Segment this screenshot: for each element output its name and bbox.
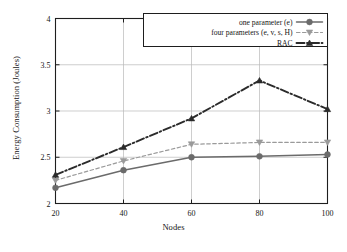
y-axis-tick-label: 2: [47, 200, 51, 209]
y-axis-tick-label: 2.5: [41, 153, 51, 162]
legend-entry-label: RAC: [277, 39, 293, 48]
x-axis-tick-label: 40: [120, 209, 128, 218]
chart-legend: one parameter (e)four parameters (e, v, …: [144, 14, 328, 48]
x-axis-tick-label: 20: [52, 209, 60, 218]
series-data-point: [121, 167, 127, 173]
series-data-point: [325, 152, 331, 158]
x-axis-tick-label: 100: [322, 209, 334, 218]
series-data-point: [256, 77, 262, 83]
legend-sample-marker: [307, 19, 313, 25]
series-data-point: [52, 178, 58, 184]
series-data-point: [324, 140, 330, 146]
x-axis-tick-label: 60: [188, 209, 196, 218]
y-axis-title: Energy Consumption (Joules): [11, 43, 21, 173]
legend-entry-label: four parameters (e, v, s, H): [211, 28, 293, 37]
series-data-point: [257, 153, 263, 159]
x-axis-tick-label: 80: [256, 209, 264, 218]
series-data-point: [189, 154, 195, 160]
y-axis-tick-label: 4: [47, 15, 51, 24]
series-data-point: [53, 185, 59, 191]
energy-consumption-chart: 22.533.5420406080100 one parameter (e)fo…: [0, 0, 347, 252]
y-axis-tick-label: 3: [47, 107, 51, 116]
x-axis-title: Nodes: [0, 222, 347, 232]
legend-entry-label: one parameter (e): [239, 18, 293, 27]
chart-canvas: 22.533.5420406080100 one parameter (e)fo…: [0, 0, 347, 252]
y-axis-tick-label: 3.5: [41, 61, 51, 70]
